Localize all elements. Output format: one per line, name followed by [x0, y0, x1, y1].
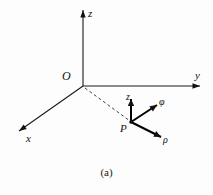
origin-to-point-dashed-line: [85, 88, 130, 121]
origin-label: O: [62, 70, 71, 82]
phi-unit-vector-label: φ: [159, 97, 165, 107]
z-axis-label: z: [88, 8, 92, 19]
point-P-marker: [129, 120, 133, 124]
x-axis-line: [19, 86, 83, 131]
point-P-label: P: [120, 123, 127, 134]
rho-unit-vector-label: ρ: [163, 135, 168, 145]
figure-container: O z y x P z φ ρ (a): [0, 0, 213, 195]
y-axis-arrowhead: [193, 83, 201, 88]
y-axis-label: y: [195, 70, 200, 81]
z-axis-arrowhead: [80, 10, 85, 18]
figure-caption: (a): [0, 166, 213, 178]
x-axis-label: x: [26, 133, 31, 144]
x-axis-arrowhead: [19, 124, 27, 131]
z-unit-vector-label: z: [126, 92, 130, 102]
